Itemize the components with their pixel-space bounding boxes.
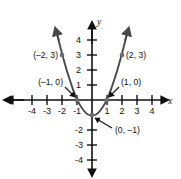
y-tick-label-3: 3: [76, 50, 81, 60]
x-axis-label: x: [167, 96, 173, 106]
point-label-neg1-0: (–1, 0): [38, 77, 63, 87]
point-dot-neg2-3: [60, 53, 65, 58]
x-tick-label-1: 1: [104, 106, 109, 116]
x-tick-label--3: -3: [43, 106, 51, 116]
x-tick-label--1: -1: [73, 106, 81, 116]
point-labels-group: (–2, 3) (–1, 0) (1, 0) (2, 3) (0, –1): [33, 50, 146, 135]
y-tick-label--4: -4: [75, 155, 83, 165]
x-tick-label-3: 3: [134, 106, 139, 116]
y-tick-label--3: -3: [75, 140, 83, 150]
x-tick-label--4: -4: [28, 106, 36, 116]
parabola-right-arrow: [125, 34, 127, 40]
point-label-2-3: (2, 3): [126, 50, 146, 60]
point-dot-neg1-0: [75, 98, 80, 103]
leader-line-0-neg1: [95, 118, 112, 128]
point-label-1-0: (1, 0): [121, 77, 141, 87]
point-dot-2-3: [120, 53, 125, 58]
x-tick-label-2: 2: [119, 106, 124, 116]
point-label-0-neg1: (0, –1): [115, 125, 140, 135]
y-tick-label-2: 2: [76, 65, 81, 75]
coordinate-plane-svg: -4 -3 -2 -1 1 2 3 4 4 3 2 1 -2 -3 -4 x y: [0, 0, 181, 179]
point-dot-0-neg1: [90, 113, 95, 118]
y-tick-label-4: 4: [76, 35, 81, 45]
point-dot-1-0: [105, 98, 110, 103]
x-tick-label--2: -2: [58, 106, 66, 116]
y-axis-label: y: [96, 17, 102, 27]
y-tick-label-1: 1: [76, 80, 81, 90]
x-tick-label-4: 4: [149, 106, 154, 116]
parabola-left-arrow: [57, 34, 59, 40]
point-label-neg2-3: (–2, 3): [33, 50, 58, 60]
parabola-graph-figure: -4 -3 -2 -1 1 2 3 4 4 3 2 1 -2 -3 -4 x y: [0, 0, 181, 179]
y-tick-label--2: -2: [75, 125, 83, 135]
